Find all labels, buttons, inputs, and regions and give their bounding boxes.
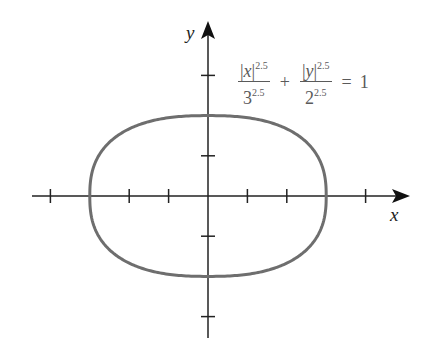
exponent: 2.5	[317, 60, 330, 71]
exponent: 2.5	[255, 60, 268, 71]
equation: |x|2.5 32.5 + |y|2.5 22.5 = 1	[236, 56, 369, 109]
rhs-value: 1	[360, 72, 369, 93]
x-axis-label: x	[390, 204, 398, 226]
var-y: y	[305, 61, 313, 81]
exponent: 2.5	[252, 87, 265, 98]
coordinate-plot	[0, 0, 421, 363]
exponent: 2.5	[314, 87, 327, 98]
numerator-y: |y|2.5	[300, 56, 332, 81]
base: 3	[243, 88, 252, 108]
denominator-y: 22.5	[303, 82, 329, 109]
equation-term-x: |x|2.5 32.5	[238, 56, 270, 109]
y-axis-label: y	[186, 22, 194, 44]
plus-sign: +	[280, 72, 290, 93]
equals-sign: =	[342, 72, 352, 93]
equation-term-y: |y|2.5 22.5	[300, 56, 332, 109]
var-x: x	[244, 61, 252, 81]
numerator-x: |x|2.5	[238, 56, 270, 81]
base: 2	[305, 88, 314, 108]
denominator-x: 32.5	[241, 82, 267, 109]
